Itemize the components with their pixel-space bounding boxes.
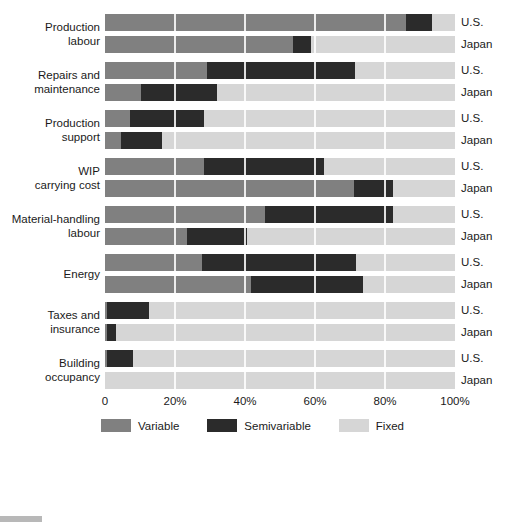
segment-semivariable: [204, 158, 324, 175]
bar-row-energy-u-s: [105, 254, 455, 271]
segment-variable: [105, 14, 406, 31]
series-label-japan: Japan: [461, 277, 492, 291]
legend-item-variable[interactable]: Variable: [101, 419, 179, 432]
segment-fixed: [149, 302, 455, 319]
category-label-repairs-and-maintenance: Repairs andmaintenance: [4, 68, 100, 96]
series-label-u-s: U.S.: [461, 63, 483, 77]
cost-structure-chart: ProductionlabourRepairs andmaintenancePr…: [0, 0, 505, 524]
segment-fixed: [133, 350, 455, 367]
category-label-line: occupancy: [4, 370, 100, 384]
category-label-line: labour: [4, 226, 100, 240]
bar-row-wip-carrying-cost-japan: [105, 180, 455, 197]
bar-row-energy-japan: [105, 276, 455, 293]
series-label-japan: Japan: [461, 325, 492, 339]
segment-variable: [105, 36, 293, 53]
segment-variable: [105, 206, 265, 223]
bar-row-building-occupancy-japan: [105, 372, 455, 389]
category-label-building-occupancy: Buildingoccupancy: [4, 356, 100, 384]
segment-semivariable: [107, 350, 133, 367]
series-label-u-s: U.S.: [461, 351, 483, 365]
series-label-u-s: U.S.: [461, 207, 483, 221]
legend-label-semivariable: Semivariable: [244, 420, 310, 432]
series-label-japan: Japan: [461, 373, 492, 387]
segment-semivariable: [202, 254, 356, 271]
plot-area: [105, 14, 455, 389]
segment-fixed: [355, 62, 455, 79]
chart-legend: VariableSemivariableFixed: [0, 419, 505, 432]
legend-swatch-variable: [101, 419, 131, 432]
legend-label-variable: Variable: [138, 420, 179, 432]
category-label-line: Production: [4, 116, 100, 130]
segment-fixed: [432, 14, 455, 31]
bar-row-taxes-and-insurance-japan: [105, 324, 455, 341]
x-tick-label-100: 100%: [440, 394, 469, 408]
bar-row-material-handling-labour-japan: [105, 228, 455, 245]
series-label-japan: Japan: [461, 37, 492, 51]
footer-rule: [0, 516, 42, 522]
category-label-line: insurance: [4, 322, 100, 336]
category-label-wip-carrying-cost: WIPcarrying cost: [4, 164, 100, 192]
x-tick-label-80: 80%: [373, 394, 396, 408]
x-tick-label-40: 40%: [233, 394, 256, 408]
series-label-u-s: U.S.: [461, 111, 483, 125]
segment-semivariable: [107, 324, 116, 341]
category-label-line: Material-handling: [4, 212, 100, 226]
segment-fixed: [162, 132, 455, 149]
bar-row-production-labour-japan: [105, 36, 455, 53]
segment-fixed: [247, 228, 455, 245]
series-label-japan: Japan: [461, 133, 492, 147]
bar-row-repairs-and-maintenance-u-s: [105, 62, 455, 79]
segment-variable: [105, 158, 204, 175]
category-label-material-handling-labour: Material-handlinglabour: [4, 212, 100, 240]
category-label-production-support: Productionsupport: [4, 116, 100, 144]
series-label-u-s: U.S.: [461, 15, 483, 29]
segment-fixed: [105, 372, 455, 389]
series-label-japan: Japan: [461, 181, 492, 195]
bar-row-production-support-u-s: [105, 110, 455, 127]
segment-fixed: [356, 254, 455, 271]
segment-variable: [105, 276, 251, 293]
segment-fixed: [116, 324, 455, 341]
category-label-production-labour: Productionlabour: [4, 20, 100, 48]
x-tick-label-20: 20%: [163, 394, 186, 408]
segment-semivariable: [293, 36, 311, 53]
segment-semivariable: [187, 228, 247, 245]
legend-item-semivariable[interactable]: Semivariable: [207, 419, 310, 432]
category-label-line: carrying cost: [4, 178, 100, 192]
bar-row-wip-carrying-cost-u-s: [105, 158, 455, 175]
category-label-line: support: [4, 130, 100, 144]
segment-fixed: [393, 206, 455, 223]
bar-row-repairs-and-maintenance-japan: [105, 84, 455, 101]
segment-fixed: [204, 110, 455, 127]
segment-variable: [105, 110, 130, 127]
segment-fixed: [324, 158, 455, 175]
legend-swatch-fixed: [339, 419, 369, 432]
segment-semivariable: [207, 62, 355, 79]
segment-variable: [105, 254, 202, 271]
bar-row-material-handling-labour-u-s: [105, 206, 455, 223]
bar-row-taxes-and-insurance-u-s: [105, 302, 455, 319]
x-tick-label-0: 0: [102, 394, 108, 408]
category-label-line: maintenance: [4, 82, 100, 96]
segment-variable: [105, 228, 187, 245]
category-label-line: Production: [4, 20, 100, 34]
series-label-u-s: U.S.: [461, 159, 483, 173]
segment-fixed: [217, 84, 455, 101]
segment-fixed: [393, 180, 455, 197]
series-label-u-s: U.S.: [461, 303, 483, 317]
legend-label-fixed: Fixed: [376, 420, 404, 432]
category-label-energy: Energy: [4, 267, 100, 281]
segment-variable: [105, 180, 354, 197]
segment-variable: [105, 84, 141, 101]
series-label-japan: Japan: [461, 229, 492, 243]
legend-item-fixed[interactable]: Fixed: [339, 419, 404, 432]
bar-row-production-labour-u-s: [105, 14, 455, 31]
series-label-u-s: U.S.: [461, 255, 483, 269]
category-label-line: labour: [4, 34, 100, 48]
legend-swatch-semivariable: [207, 419, 237, 432]
category-label-line: Repairs and: [4, 68, 100, 82]
segment-semivariable: [130, 110, 205, 127]
segment-semivariable: [251, 276, 363, 293]
segment-semivariable: [141, 84, 217, 101]
category-label-taxes-and-insurance: Taxes andinsurance: [4, 308, 100, 336]
